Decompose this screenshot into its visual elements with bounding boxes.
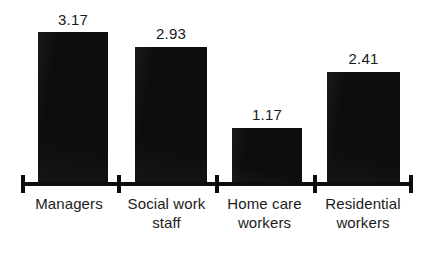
- x-axis-label-home-care-workers-line1: Home care: [227, 195, 301, 212]
- bar-managers: [38, 32, 108, 183]
- bar-home-care-workers: [232, 128, 302, 183]
- bar-residential-workers: [327, 72, 400, 183]
- x-axis-tick-0: [21, 175, 25, 193]
- plot-area: 3.17 2.93 1.17 2.41: [0, 0, 434, 186]
- x-axis-label-residential-workers-line1: Residential: [325, 195, 400, 212]
- x-axis-tick-4: [409, 175, 413, 193]
- x-axis-label-home-care-workers-line2: workers: [215, 213, 314, 232]
- x-axis-label-residential-workers: Residential workers: [313, 194, 413, 232]
- bar-chart: 3.17 2.93 1.17 2.41 Managers Social work…: [0, 0, 434, 257]
- value-label-social-work-staff: 2.93: [135, 26, 207, 41]
- x-axis-label-managers-line1: Managers: [35, 195, 103, 212]
- value-label-home-care-workers: 1.17: [232, 107, 302, 122]
- value-label-residential-workers: 2.41: [327, 51, 400, 66]
- x-axis-tick-3: [313, 175, 317, 193]
- x-axis-label-residential-workers-line2: workers: [313, 213, 413, 232]
- x-axis-label-social-work-staff-line1: Social work: [128, 195, 206, 212]
- x-axis-label-home-care-workers: Home care workers: [215, 194, 314, 232]
- x-axis-tick-2: [215, 175, 219, 193]
- bar-social-work-staff: [135, 47, 207, 183]
- value-label-managers: 3.17: [38, 12, 108, 27]
- x-axis-label-social-work-staff: Social work staff: [117, 194, 216, 232]
- x-axis-tick-1: [117, 175, 121, 193]
- x-axis-label-managers: Managers: [18, 194, 120, 213]
- x-axis-label-social-work-staff-line2: staff: [117, 213, 216, 232]
